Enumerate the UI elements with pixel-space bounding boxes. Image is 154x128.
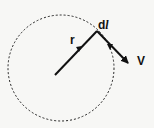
radius-label: r <box>70 34 75 46</box>
diagram-graphic <box>0 0 154 128</box>
diagram-canvas: r dl V <box>0 0 154 128</box>
radius-vector-arrow <box>55 31 97 75</box>
line-element-l: l <box>105 18 108 32</box>
velocity-arrow <box>97 31 128 63</box>
velocity-label: V <box>137 55 145 67</box>
line-element-label: dl <box>98 19 109 31</box>
